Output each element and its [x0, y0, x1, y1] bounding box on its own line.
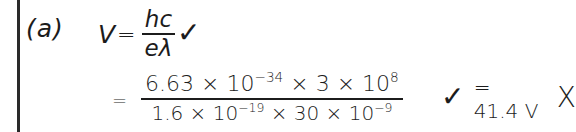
checkmark-icon: ✓ — [177, 19, 200, 47]
denominator-term-wavelength: × 30 × 10 — [264, 101, 374, 125]
formula-lhs: V — [98, 20, 115, 49]
substitution-numerator: 6.63 × 10−34 × 3 × 108 — [141, 73, 403, 98]
numerator-term-speed: × 3 × 10 — [283, 71, 390, 96]
formula-numerator: hc — [142, 8, 175, 33]
formula-denominator: eλ — [142, 35, 176, 60]
substitution-fraction: 6.63 × 10−34 × 3 × 108 1.6 × 10−19 × 30 … — [141, 73, 403, 123]
denominator-term-charge: 1.6 × 10 — [151, 101, 238, 125]
checkmark-icon: ✓ — [441, 83, 464, 111]
equals-sign: = — [117, 22, 135, 47]
substitution-denominator: 1.6 × 10−19 × 30 × 10−9 — [147, 100, 396, 123]
result-value: = 41.4 V — [474, 75, 541, 123]
equation-substitution: = 6.63 × 10−34 × 3 × 108 1.6 × 10−19 × 3… — [112, 66, 576, 130]
equals-sign: = — [112, 90, 127, 111]
numerator-term-planck: 6.63 × 10 — [145, 71, 254, 96]
part-label: (a) — [26, 14, 64, 43]
equation-formula: V = hc eλ ✓ — [98, 6, 200, 62]
exponent: −34 — [255, 69, 284, 85]
exponent: −9 — [374, 100, 392, 115]
formula-fraction: hc eλ — [142, 8, 176, 60]
margin-line — [17, 0, 20, 132]
exponent: 8 — [390, 69, 399, 85]
cross-mark-icon: X — [557, 81, 576, 114]
exponent: −19 — [238, 100, 264, 115]
